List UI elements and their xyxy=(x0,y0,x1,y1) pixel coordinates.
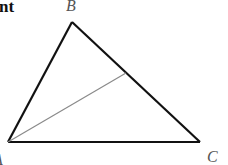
vertex-label-a: A xyxy=(0,152,3,165)
vertex-label-c: C xyxy=(207,149,218,165)
side-bc xyxy=(72,22,200,142)
triangle-diagram xyxy=(0,0,228,165)
side-ab xyxy=(8,22,72,142)
vertex-label-b: B xyxy=(66,0,76,14)
